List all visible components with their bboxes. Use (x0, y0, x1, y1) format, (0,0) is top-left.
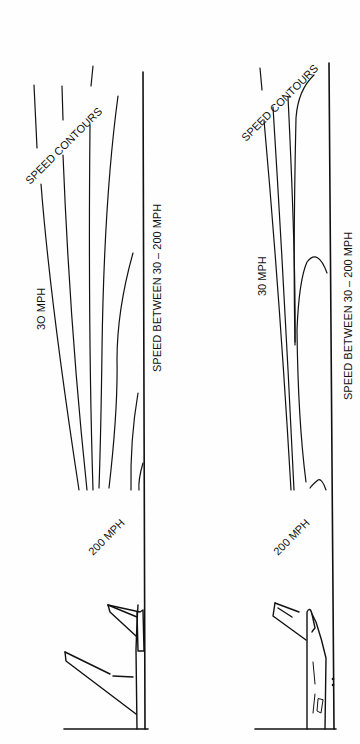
panel-left-high-speed-label: 200 MPH (86, 516, 127, 557)
panel-right-low-speed-label: 30 MPH (256, 256, 268, 296)
panel-right-baseline (329, 63, 334, 729)
panel-right-detail-dot (332, 678, 335, 681)
panel-right: SPEED CONTOURS 30 MPH 200 MPH SPEED BETW… (239, 62, 354, 729)
panel-left-aircraft-icon (65, 605, 144, 729)
panel-left-range-note: SPEED BETWEEN 30 – 200 MPH (151, 204, 163, 372)
diagram-svg: SPEED CONTOURS 3O MPH 200 MPH SPEED BETW… (0, 0, 360, 744)
diagram-canvas: SPEED CONTOURS 3O MPH 200 MPH SPEED BETW… (0, 0, 360, 744)
panel-right-aircraft-icon (273, 603, 334, 729)
panel-left-low-speed-label: 3O MPH (35, 288, 47, 330)
panel-left-speed-contours (34, 66, 143, 490)
panel-right-speed-contours (260, 68, 327, 490)
panel-right-high-speed-label: 200 MPH (271, 516, 312, 557)
panel-right-detail-dot (332, 684, 335, 687)
panel-right-range-note: SPEED BETWEEN 30 – 200 MPH (342, 232, 354, 400)
panel-right-contours-label: SPEED CONTOURS (239, 62, 320, 143)
panel-left: SPEED CONTOURS 3O MPH 200 MPH SPEED BETW… (23, 66, 163, 729)
